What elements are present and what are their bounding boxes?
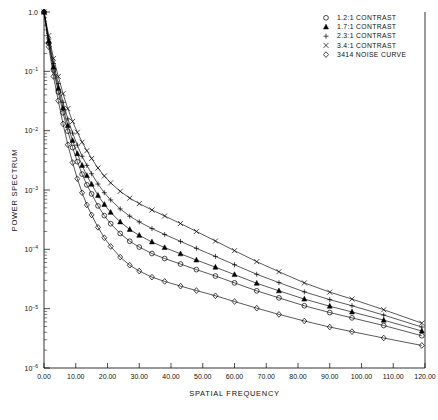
- data-point-marker: [149, 226, 154, 231]
- data-point-marker: [80, 163, 85, 168]
- data-point-marker: [118, 189, 123, 194]
- x-tick-label: 50.00: [194, 373, 212, 380]
- x-tick-label: 110.00: [383, 373, 404, 380]
- data-point-marker: [254, 259, 259, 264]
- legend-entry-label: 3414 NOISE CURVE: [337, 51, 406, 58]
- y-axis-ticks: 1.010−110−210−310−410−510−6: [25, 9, 51, 372]
- data-point-marker: [149, 208, 154, 213]
- x-tick-label: 30.00: [130, 373, 148, 380]
- data-point-marker: [419, 333, 424, 338]
- y-tick-label: 1.0: [28, 9, 38, 16]
- data-point-marker: [84, 148, 89, 153]
- y-tick-label: 10−4: [25, 244, 39, 253]
- legend-entry-label: 2.3:1 CONTRAST: [337, 32, 396, 39]
- data-point-marker: [89, 171, 94, 176]
- legend-entry-label: 3.4:1 CONTRAST: [337, 42, 396, 49]
- data-point-marker: [194, 229, 199, 234]
- y-tick-label: 10−2: [25, 126, 39, 135]
- data-point-marker: [324, 43, 329, 48]
- legend-entry-label: 1.7:1 CONTRAST: [337, 23, 396, 30]
- series-line: [44, 12, 422, 336]
- x-axis-ticks: 0.0010.0020.0030.0040.0050.0060.0070.008…: [37, 363, 436, 380]
- data-point-marker: [84, 173, 89, 178]
- x-axis-title: SPATIAL FREQUENCY: [189, 389, 280, 398]
- data-point-marker: [419, 343, 424, 349]
- data-point-marker: [108, 180, 113, 185]
- data-point-marker: [162, 213, 167, 218]
- figure-container: 0.0010.0020.0030.0040.0050.0060.0070.008…: [0, 0, 438, 420]
- power-spectrum-chart: 0.0010.0020.0030.0040.0050.0060.0070.008…: [0, 0, 438, 420]
- x-tick-label: 80.00: [289, 373, 307, 380]
- data-point-marker: [95, 165, 100, 170]
- y-tick-label: 10−1: [25, 66, 39, 75]
- data-point-marker: [324, 52, 329, 58]
- x-tick-label: 40.00: [162, 373, 180, 380]
- x-tick-label: 90.00: [321, 373, 339, 380]
- x-tick-label: 70.00: [257, 373, 275, 380]
- data-point-marker: [276, 280, 281, 285]
- data-point-marker: [137, 201, 142, 206]
- y-tick-label: 10−6: [25, 363, 39, 372]
- series-1: [42, 10, 425, 338]
- data-point-marker: [102, 174, 107, 179]
- data-point-marker: [149, 239, 154, 244]
- data-point-marker: [232, 262, 237, 267]
- data-point-marker: [65, 106, 70, 111]
- data-point-marker: [178, 221, 183, 226]
- legend-entry-label: 1.2:1 CONTRAST: [337, 14, 396, 21]
- x-tick-label: 60.00: [226, 373, 244, 380]
- data-point-marker: [95, 182, 100, 187]
- data-point-marker: [324, 24, 329, 29]
- x-tick-label: 20.00: [99, 373, 117, 380]
- data-point-marker: [61, 91, 66, 96]
- x-tick-label: 10.00: [67, 373, 85, 380]
- data-point-marker: [127, 227, 132, 232]
- data-point-marker: [162, 232, 167, 237]
- data-point-marker: [302, 289, 307, 294]
- data-point-marker: [178, 239, 183, 244]
- data-point-marker: [137, 232, 142, 237]
- x-tick-label: 100.00: [351, 373, 373, 380]
- data-point-marker: [89, 181, 94, 186]
- data-point-marker: [381, 313, 386, 318]
- data-point-marker: [194, 246, 199, 251]
- series-5: [42, 9, 425, 348]
- data-point-marker: [70, 138, 75, 143]
- y-tick-label: 10−3: [25, 185, 39, 194]
- data-point-marker: [324, 34, 329, 39]
- data-point-marker: [80, 140, 85, 145]
- data-point-marker: [75, 151, 80, 156]
- data-point-marker: [84, 163, 89, 168]
- data-point-marker: [213, 254, 218, 259]
- data-point-marker: [302, 280, 307, 285]
- data-point-marker: [89, 156, 94, 161]
- x-tick-label: 120.00: [414, 373, 436, 380]
- data-point-marker: [137, 219, 142, 224]
- data-point-marker: [327, 290, 332, 295]
- x-tick-label: 0.00: [37, 373, 51, 380]
- data-point-marker: [80, 154, 85, 159]
- data-point-marker: [324, 15, 329, 20]
- y-axis-title: POWER SPECTRUM: [10, 149, 19, 231]
- y-tick-label: 10−5: [25, 304, 39, 313]
- data-point-marker: [381, 307, 386, 312]
- data-point-marker: [127, 196, 132, 201]
- data-point-marker: [95, 193, 100, 198]
- data-point-marker: [65, 116, 70, 121]
- data-point-marker: [70, 119, 75, 124]
- data-point-marker: [327, 297, 332, 302]
- data-point-marker: [213, 239, 218, 244]
- data-point-marker: [349, 303, 354, 308]
- data-point-marker: [232, 248, 237, 253]
- data-point-marker: [75, 143, 80, 148]
- chart-legend: 1.2:1 CONTRAST1.7:1 CONTRAST2.3:1 CONTRA…: [324, 14, 407, 58]
- data-point-marker: [254, 272, 259, 277]
- series-line: [44, 12, 422, 327]
- data-point-marker: [349, 297, 354, 302]
- axis-frame: [44, 12, 425, 368]
- data-point-marker: [75, 130, 80, 135]
- data-point-marker: [276, 269, 281, 274]
- series-line: [44, 12, 422, 345]
